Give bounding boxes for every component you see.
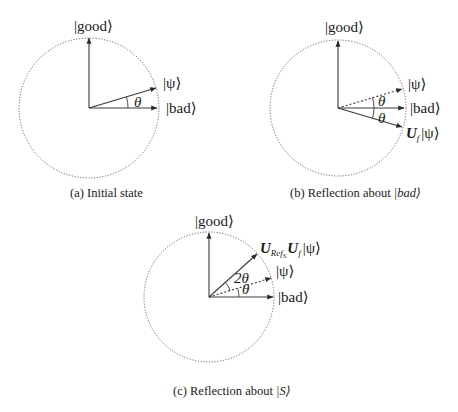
uf-psi-label: Uf|ψ⟩ (406, 125, 440, 143)
result-vector-arrow (209, 254, 257, 297)
psi-label: |ψ⟩ (276, 263, 294, 279)
uf-psi-vector-arrow (338, 108, 402, 127)
bad-label: |bad⟩ (278, 289, 309, 305)
psi-label: |ψ⟩ (163, 75, 181, 91)
bad-label: |bad⟩ (410, 100, 441, 116)
psi-vector-arrow-dashed (338, 89, 402, 108)
theta-upper-label: θ (378, 93, 386, 109)
two-theta-label: 2θ (234, 270, 250, 286)
theta-arc (126, 97, 128, 108)
caption-b: (b) Reflection about |bad⟩ (290, 186, 421, 200)
good-label: |good⟩ (325, 19, 364, 35)
panel-a-initial-state: |good⟩ |ψ⟩ |bad⟩ θ (a) Initial state (19, 18, 197, 200)
caption-c: (c) Reflection about |S⟩ (173, 384, 291, 398)
good-label: |good⟩ (74, 18, 113, 34)
result-label: URefSUf|ψ⟩ (260, 240, 321, 260)
panel-b-reflection-about-bad: |good⟩ |ψ⟩ |bad⟩ θ θ Uf|ψ⟩ (b) Reflectio… (270, 19, 441, 200)
theta-label: θ (134, 94, 142, 110)
psi-vector-arrow (89, 88, 156, 108)
bad-label: |bad⟩ (166, 100, 197, 116)
caption-a: (a) Initial state (70, 186, 143, 200)
psi-label: |ψ⟩ (408, 76, 426, 92)
two-theta-arc (225, 282, 230, 290)
theta-lower-label: θ (378, 110, 386, 126)
theta-arc (238, 288, 239, 297)
grover-geometry-figure: |good⟩ |ψ⟩ |bad⟩ θ (a) Initial state |go… (0, 0, 458, 412)
good-label: |good⟩ (195, 213, 234, 229)
panel-c-reflection-about-s: |good⟩ |ψ⟩ |bad⟩ θ 2θ URefSUf|ψ⟩ (c) Ref… (144, 213, 321, 398)
